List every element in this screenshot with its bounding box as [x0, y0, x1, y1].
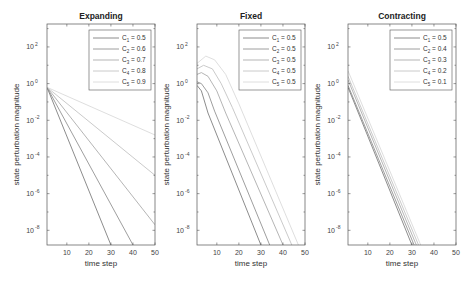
- svg-text:-8: -8: [35, 224, 40, 230]
- x-tick-label: 10: [213, 249, 221, 256]
- y-tick-label: 10: [26, 153, 34, 160]
- panel-title: Fixed: [240, 11, 262, 21]
- y-axis-label: state perturbation magnitude: [313, 83, 322, 185]
- series-line-c4: [47, 87, 155, 175]
- svg-text:-2: -2: [336, 114, 341, 120]
- x-tick-label: 30: [107, 249, 115, 256]
- legend: C1 = 0.5C2 = 0.4C3 = 0.3C4 = 0.2C5 = 0.1: [390, 30, 452, 90]
- svg-text:-4: -4: [185, 151, 190, 157]
- y-tick-label: 10: [176, 227, 184, 234]
- x-tick-label: 40: [279, 249, 287, 256]
- x-tick-label: 50: [151, 249, 159, 256]
- series-line-c2: [197, 82, 270, 245]
- figure: 102030405010210010-210-410-610-8Expandin…: [0, 0, 476, 283]
- x-tick-label: 20: [386, 249, 394, 256]
- x-tick-label: 10: [364, 249, 372, 256]
- x-tick-label: 20: [235, 249, 243, 256]
- x-tick-label: 30: [408, 249, 416, 256]
- svg-text:-2: -2: [35, 114, 40, 120]
- x-axis-label: time step: [386, 259, 419, 268]
- svg-text:-4: -4: [35, 151, 40, 157]
- plot-area: [47, 87, 155, 245]
- y-tick-label: 10: [176, 190, 184, 197]
- svg-text:-8: -8: [336, 224, 341, 230]
- legend: C1 = 0.5C2 = 0.6C3 = 0.7C4 = 0.8C5 = 0.9: [89, 30, 151, 90]
- series-line-c1: [197, 85, 261, 245]
- y-tick-label: 10: [26, 80, 34, 87]
- y-tick-label: 10: [176, 153, 184, 160]
- svg-text:-4: -4: [336, 151, 341, 157]
- plot-area: [348, 71, 421, 245]
- panel-title: Expanding: [79, 11, 122, 21]
- panel-title: Contracting: [378, 11, 426, 21]
- series-line-c3: [47, 87, 155, 225]
- y-tick-label: 10: [26, 43, 34, 50]
- svg-text:-6: -6: [35, 188, 40, 194]
- svg-text:0: 0: [336, 78, 339, 84]
- x-tick-label: 10: [63, 249, 71, 256]
- y-tick-label: 10: [26, 117, 34, 124]
- series-line-c2: [348, 85, 414, 245]
- y-tick-label: 10: [26, 190, 34, 197]
- y-tick-label: 10: [327, 227, 335, 234]
- svg-text:-2: -2: [185, 114, 190, 120]
- x-tick-label: 50: [301, 249, 309, 256]
- y-tick-label: 10: [26, 227, 34, 234]
- y-tick-label: 10: [327, 117, 335, 124]
- svg-text:-8: -8: [185, 224, 190, 230]
- x-axis-label: time step: [85, 259, 118, 268]
- x-tick-label: 30: [257, 249, 265, 256]
- svg-text:-6: -6: [336, 188, 341, 194]
- y-tick-label: 10: [176, 117, 184, 124]
- y-axis-label: state perturbation magnitude: [162, 83, 171, 185]
- svg-text:0: 0: [185, 78, 188, 84]
- panel-expanding: 102030405010210010-210-410-610-8Expandin…: [12, 11, 159, 268]
- y-tick-label: 10: [327, 43, 335, 50]
- svg-text:0: 0: [35, 78, 38, 84]
- x-tick-label: 40: [430, 249, 438, 256]
- y-tick-label: 10: [327, 80, 335, 87]
- y-tick-label: 10: [327, 153, 335, 160]
- svg-text:-6: -6: [185, 188, 190, 194]
- y-axis-label: state perturbation magnitude: [12, 83, 21, 185]
- panel-fixed: 102030405010210010-210-410-610-8Fixedtim…: [162, 11, 309, 268]
- svg-text:2: 2: [35, 41, 38, 47]
- series-line-c4: [348, 76, 419, 245]
- series-line-c1: [348, 87, 412, 245]
- svg-text:2: 2: [185, 41, 188, 47]
- y-tick-label: 10: [176, 80, 184, 87]
- series-line-c2: [47, 87, 133, 245]
- panel-contracting: 102030405010210010-210-410-610-8Contract…: [313, 11, 460, 268]
- y-tick-label: 10: [176, 43, 184, 50]
- x-tick-label: 20: [85, 249, 93, 256]
- x-tick-label: 50: [452, 249, 460, 256]
- series-line-c5: [348, 71, 421, 245]
- series-line-c3: [348, 80, 416, 245]
- y-tick-label: 10: [327, 190, 335, 197]
- svg-text:2: 2: [336, 41, 339, 47]
- x-axis-label: time step: [235, 259, 268, 268]
- legend: C1 = 0.5C2 = 0.5C3 = 0.5C4 = 0.5C5 = 0.5: [239, 30, 301, 90]
- x-tick-label: 40: [129, 249, 137, 256]
